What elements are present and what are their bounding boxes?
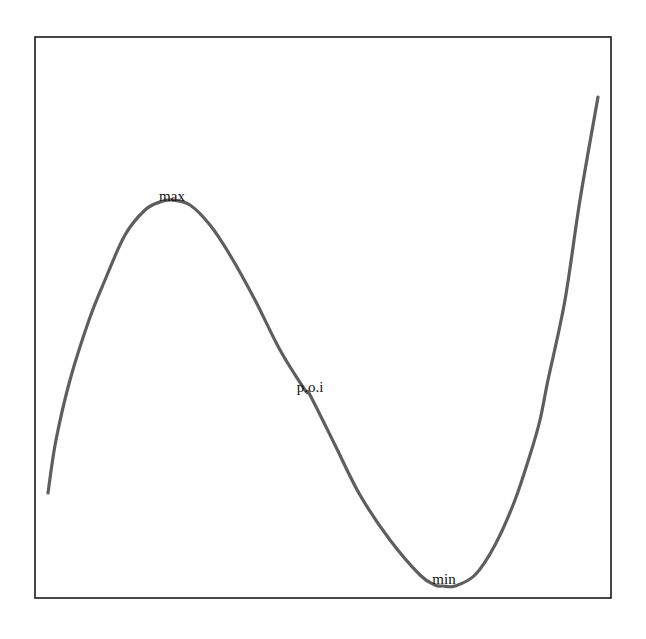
max-label: max: [159, 188, 185, 204]
cubic-curve: [48, 97, 598, 587]
min-label: min: [432, 571, 456, 587]
cubic-plot: max p.o.i min: [0, 0, 646, 639]
plot-frame: [35, 37, 611, 598]
poi-label: p.o.i: [297, 379, 324, 395]
